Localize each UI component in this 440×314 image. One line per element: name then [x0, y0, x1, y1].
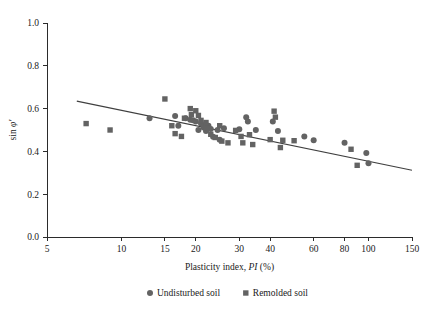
y-tick-label: 1.0	[27, 18, 39, 28]
legend-label-undisturbed: Undisturbed soil	[157, 288, 220, 298]
data-point-square	[107, 127, 112, 132]
data-point-square	[250, 142, 255, 147]
x-tick-label: 10	[117, 244, 127, 254]
data-point-square	[193, 108, 198, 113]
data-point-square	[219, 138, 224, 143]
data-point-square	[247, 132, 252, 137]
data-point-square	[348, 147, 353, 152]
data-point-square	[280, 138, 285, 143]
x-tick-label: 80	[340, 244, 350, 254]
data-point-square	[196, 113, 201, 118]
data-point-square	[233, 128, 238, 133]
data-point-square	[225, 140, 230, 145]
data-point-square	[169, 123, 174, 128]
y-tick-label: 0.0	[27, 232, 39, 242]
data-point-square	[354, 163, 359, 168]
data-point-square	[206, 126, 211, 131]
y-tick-label: 0.4	[27, 147, 39, 157]
chart-legend: Undisturbed soilRemolded soil	[147, 288, 308, 298]
data-point-square	[217, 123, 222, 128]
data-point-square	[182, 116, 187, 121]
x-tick-label: 15	[160, 244, 170, 254]
data-point-square	[172, 131, 177, 136]
y-tick-label: 0.2	[27, 190, 39, 200]
x-axis-title: Plasticity index, PI (%)	[185, 262, 274, 273]
data-point-circle	[253, 127, 259, 133]
data-point-circle	[363, 150, 369, 156]
data-point-square	[213, 135, 218, 140]
data-point-square	[273, 114, 278, 119]
data-point-square	[267, 137, 272, 142]
legend-label-remolded: Remolded soil	[253, 288, 309, 298]
data-point-circle	[275, 128, 281, 134]
data-point-circle	[311, 137, 317, 143]
data-point-square	[278, 145, 283, 150]
legend-marker-square	[243, 290, 248, 295]
data-point-square	[83, 121, 88, 126]
data-point-square	[271, 108, 276, 113]
data-point-square	[162, 96, 167, 101]
y-tick-label: 0.8	[27, 61, 39, 71]
data-point-square	[238, 134, 243, 139]
data-point-circle	[175, 123, 181, 129]
data-point-square	[203, 120, 208, 125]
x-tick-label: 30	[235, 244, 245, 254]
data-point-circle	[342, 140, 348, 146]
x-tick-label: 60	[309, 244, 319, 254]
data-point-circle	[245, 118, 251, 124]
chart-container: 0.00.20.40.60.81.0510152030406080100150P…	[0, 0, 440, 314]
y-tick-label: 0.6	[27, 104, 39, 114]
y-axis-title: sin φ′	[8, 119, 18, 141]
data-point-circle	[147, 115, 153, 121]
data-point-square	[188, 106, 193, 111]
legend-marker-circle	[147, 290, 153, 296]
x-tick-label: 100	[361, 244, 376, 254]
series-remolded	[83, 96, 359, 168]
x-tick-label: 20	[191, 244, 201, 254]
scatter-plot: 0.00.20.40.60.81.0510152030406080100150P…	[0, 0, 440, 314]
data-point-circle	[365, 160, 371, 166]
x-tick-label: 5	[45, 244, 50, 254]
x-tick-label: 40	[265, 244, 275, 254]
trend-line	[77, 101, 412, 170]
data-point-square	[198, 118, 203, 123]
data-point-circle	[301, 133, 307, 139]
data-point-square	[179, 134, 184, 139]
series-undisturbed	[147, 113, 372, 166]
data-point-circle	[195, 127, 201, 133]
x-tick-label: 150	[405, 244, 420, 254]
data-point-square	[291, 138, 296, 143]
data-point-circle	[193, 118, 199, 124]
data-point-square	[240, 140, 245, 145]
data-point-circle	[172, 113, 178, 119]
